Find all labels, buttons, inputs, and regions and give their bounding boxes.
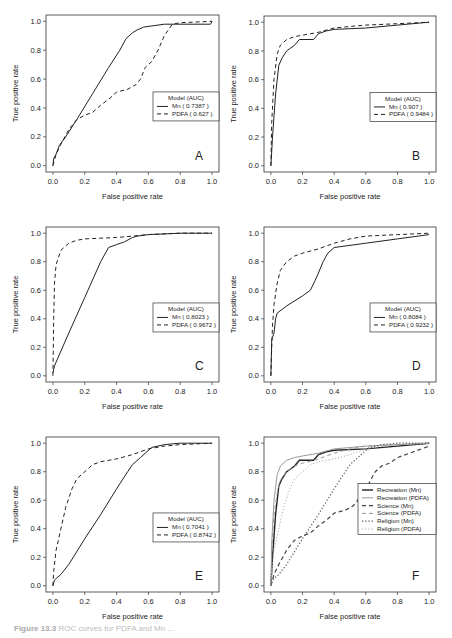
x-tick-label: 1.0 bbox=[424, 597, 434, 606]
y-tick-label: 0.8 bbox=[31, 46, 41, 55]
x-axis-label: False positive rate bbox=[102, 612, 163, 621]
x-tick-label: 0.2 bbox=[80, 597, 90, 606]
x-tick-label: 0.4 bbox=[329, 597, 339, 606]
x-axis-label: False positive rate bbox=[320, 612, 381, 621]
legend: Model (AUC)Mn ( 0.7041 )PDFA ( 0.8742 ) bbox=[153, 513, 219, 542]
x-tick-label: 0.0 bbox=[266, 597, 276, 606]
y-tick-label: 0.0 bbox=[31, 371, 41, 380]
x-tick-label: 0.8 bbox=[392, 597, 402, 606]
y-axis-label: True positive rate bbox=[229, 486, 238, 544]
legend-entry: Religion (Mn) bbox=[377, 517, 414, 524]
y-tick-label: 0.2 bbox=[31, 132, 41, 141]
legend-entry: Recreation (Mn) bbox=[377, 486, 421, 493]
y-tick-label: 1.0 bbox=[249, 229, 259, 238]
legend-entry: Mn ( 0.7041 ) bbox=[172, 523, 209, 530]
y-tick-label: 0.4 bbox=[249, 524, 259, 533]
x-tick-label: 0.6 bbox=[143, 177, 153, 186]
x-tick-label: 0.6 bbox=[361, 597, 371, 606]
x-tick-label: 1.0 bbox=[207, 177, 217, 186]
y-tick-label: 0.6 bbox=[31, 75, 41, 84]
x-tick-label: 0.8 bbox=[175, 387, 185, 396]
y-axis-label: True positive rate bbox=[229, 65, 238, 123]
x-axis-label: False positive rate bbox=[320, 402, 381, 411]
y-tick-label: 0.0 bbox=[31, 161, 41, 170]
y-tick-label: 1.0 bbox=[31, 439, 41, 448]
x-tick-label: 0.4 bbox=[111, 597, 121, 606]
legend-title: Model (AUC) bbox=[385, 305, 421, 312]
x-tick-label: 1.0 bbox=[207, 597, 217, 606]
x-tick-label: 1.0 bbox=[424, 177, 434, 186]
y-tick-label: 0.6 bbox=[31, 286, 41, 295]
y-tick-label: 0.6 bbox=[249, 496, 259, 505]
x-tick-label: 0.6 bbox=[361, 177, 371, 186]
x-tick-label: 0.0 bbox=[266, 387, 276, 396]
x-axis-label: False positive rate bbox=[102, 402, 163, 411]
legend: Model (AUC)Mn ( 0.7387 )PDFA ( 0.627 ) bbox=[153, 92, 219, 121]
roc-panel-c: 0.00.20.40.60.81.00.00.20.40.60.81.0Fals… bbox=[11, 227, 219, 411]
y-tick-label: 0.0 bbox=[249, 161, 259, 170]
legend-entry: PDFA ( 0.9484 ) bbox=[389, 110, 433, 117]
y-tick-label: 0.8 bbox=[249, 467, 259, 476]
y-tick-label: 1.0 bbox=[31, 17, 41, 26]
panel-letter: E bbox=[195, 569, 203, 583]
x-axis-label: False positive rate bbox=[102, 192, 163, 201]
panel-letter: B bbox=[412, 149, 420, 163]
legend-entry: Recreation (PDFA) bbox=[377, 494, 429, 501]
x-axis-label: False positive rate bbox=[320, 192, 381, 201]
roc-panel-f: 0.00.20.40.60.81.00.00.20.40.60.81.0Fals… bbox=[229, 437, 436, 621]
x-tick-label: 0.6 bbox=[361, 387, 371, 396]
y-tick-label: 0.8 bbox=[31, 467, 41, 476]
y-axis-label: True positive rate bbox=[229, 276, 238, 334]
legend-title: Model (AUC) bbox=[385, 95, 421, 102]
y-axis-label: True positive rate bbox=[11, 276, 20, 334]
legend-title: Model (AUC) bbox=[168, 94, 204, 101]
y-tick-label: 0.2 bbox=[249, 133, 259, 142]
y-tick-label: 0.2 bbox=[31, 553, 41, 562]
y-tick-label: 0.4 bbox=[249, 104, 259, 113]
legend-entry: PDFA ( 0.627 ) bbox=[172, 110, 213, 117]
x-tick-label: 0.2 bbox=[297, 387, 307, 396]
roc-panel-e: 0.00.20.40.60.81.00.00.20.40.60.81.0Fals… bbox=[11, 437, 219, 621]
x-tick-label: 0.6 bbox=[143, 597, 153, 606]
y-tick-label: 0.2 bbox=[249, 553, 259, 562]
legend: Model (AUC)Mn ( 0.907 )PDFA ( 0.9484 ) bbox=[370, 92, 436, 121]
legend-entry: PDFA ( 0.9672 ) bbox=[172, 321, 216, 328]
x-tick-label: 0.0 bbox=[48, 597, 58, 606]
y-tick-label: 0.6 bbox=[249, 286, 259, 295]
y-tick-label: 1.0 bbox=[249, 439, 259, 448]
y-axis-label: True positive rate bbox=[11, 486, 20, 544]
y-tick-label: 0.0 bbox=[249, 371, 259, 380]
x-tick-label: 0.4 bbox=[111, 177, 121, 186]
x-tick-label: 0.8 bbox=[175, 177, 185, 186]
legend: Model (AUC)Mn ( 0.8084 )PDFA ( 0.9232 ) bbox=[370, 303, 436, 332]
y-tick-label: 0.8 bbox=[31, 257, 41, 266]
legend: Model (AUC)Mn ( 0.8023 )PDFA ( 0.9672 ) bbox=[153, 303, 219, 332]
y-tick-label: 0.8 bbox=[249, 257, 259, 266]
x-tick-label: 0.4 bbox=[111, 387, 121, 396]
roc-panel-d: 0.00.20.40.60.81.00.00.20.40.60.81.0Fals… bbox=[229, 227, 436, 411]
legend-entry: Mn ( 0.907 ) bbox=[389, 103, 422, 110]
x-tick-label: 0.0 bbox=[266, 177, 276, 186]
legend-title: Model (AUC) bbox=[168, 305, 204, 312]
legend-entry: Religion (PDFA) bbox=[377, 525, 421, 532]
legend: Recreation (Mn)Recreation (PDFA)Science … bbox=[358, 484, 436, 535]
y-tick-label: 0.6 bbox=[249, 75, 259, 84]
x-tick-label: 0.6 bbox=[143, 387, 153, 396]
x-tick-label: 0.4 bbox=[329, 177, 339, 186]
x-tick-label: 0.0 bbox=[48, 177, 58, 186]
legend-entry: Mn ( 0.8084 ) bbox=[389, 313, 426, 320]
x-tick-label: 1.0 bbox=[207, 387, 217, 396]
y-tick-label: 0.2 bbox=[249, 343, 259, 352]
panel-letter: C bbox=[195, 359, 204, 373]
legend-entry: Mn ( 0.7387 ) bbox=[172, 102, 209, 109]
figure-caption: Figure 13.3 ROC curves for PDFA and Mn .… bbox=[14, 624, 174, 633]
x-tick-label: 0.2 bbox=[297, 597, 307, 606]
y-tick-label: 0.4 bbox=[31, 104, 41, 113]
legend-entry: Mn ( 0.8023 ) bbox=[172, 313, 209, 320]
x-tick-label: 0.8 bbox=[392, 387, 402, 396]
y-tick-label: 1.0 bbox=[31, 229, 41, 238]
panel-letter: A bbox=[195, 149, 203, 163]
x-tick-label: 0.8 bbox=[392, 177, 402, 186]
caption-label: Figure 13.3 bbox=[14, 624, 56, 633]
roc-panel-a: 0.00.20.40.60.81.00.00.20.40.60.81.0Fals… bbox=[11, 15, 219, 201]
